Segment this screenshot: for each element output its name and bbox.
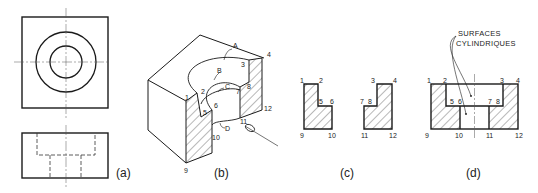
technical-drawing: A B C D 1 2 3 4 5 6 7 8 9 10 11 12 1 2 5… bbox=[0, 0, 538, 193]
d-point-12: 12 bbox=[515, 132, 523, 139]
panel-b: A B C D 1 2 3 4 5 6 7 8 9 10 11 12 bbox=[148, 35, 278, 174]
d-point-2: 2 bbox=[443, 77, 447, 84]
c-point-10: 10 bbox=[328, 132, 336, 139]
caption-d: (d) bbox=[466, 166, 481, 180]
top-view bbox=[14, 8, 110, 118]
panel-d: SURFACES CYLINDRIQUES 1 2 3 4 5 6 7 8 9 … bbox=[425, 29, 523, 140]
caption-b: (b) bbox=[214, 166, 229, 180]
d-point-6: 6 bbox=[458, 98, 462, 105]
c-point-4: 4 bbox=[393, 77, 397, 84]
point-10: 10 bbox=[212, 134, 220, 141]
point-4: 4 bbox=[267, 51, 271, 58]
point-12: 12 bbox=[264, 105, 272, 112]
c-point-8: 8 bbox=[368, 98, 372, 105]
d-point-10: 10 bbox=[455, 132, 463, 139]
label-C: C bbox=[225, 83, 230, 90]
c-point-1: 1 bbox=[300, 77, 304, 84]
point-8: 8 bbox=[247, 83, 251, 90]
point-1: 1 bbox=[185, 94, 189, 101]
annotation-line2: CYLINDRIQUES bbox=[456, 39, 516, 48]
panel-a bbox=[14, 8, 110, 188]
point-9: 9 bbox=[184, 167, 188, 174]
front-view bbox=[22, 125, 108, 188]
point-6: 6 bbox=[214, 102, 218, 109]
annotation-line1: SURFACES bbox=[458, 29, 501, 38]
d-point-3: 3 bbox=[500, 77, 504, 84]
c-point-3: 3 bbox=[371, 77, 375, 84]
c-point-5: 5 bbox=[319, 98, 323, 105]
c-point-2: 2 bbox=[319, 77, 323, 84]
d-point-7: 7 bbox=[488, 98, 492, 105]
d-point-11: 11 bbox=[486, 132, 493, 139]
c-point-7: 7 bbox=[360, 98, 364, 105]
point-2: 2 bbox=[201, 88, 205, 95]
point-11: 11 bbox=[240, 118, 247, 125]
c-point-12: 12 bbox=[389, 132, 397, 139]
label-A: A bbox=[233, 42, 238, 49]
panel-c: 1 2 5 6 9 10 3 4 7 8 11 12 bbox=[300, 77, 397, 139]
d-point-8: 8 bbox=[496, 98, 500, 105]
d-point-9: 9 bbox=[425, 132, 429, 139]
label-D: D bbox=[225, 125, 230, 132]
c-point-6: 6 bbox=[330, 98, 334, 105]
caption-a: (a) bbox=[116, 166, 131, 180]
caption-c: (c) bbox=[340, 166, 354, 180]
point-5: 5 bbox=[203, 109, 207, 116]
point-3: 3 bbox=[241, 61, 245, 68]
c-point-11: 11 bbox=[361, 132, 368, 139]
d-point-4: 4 bbox=[516, 77, 520, 84]
d-point-5: 5 bbox=[450, 98, 454, 105]
d-point-1: 1 bbox=[427, 77, 431, 84]
point-7: 7 bbox=[236, 88, 240, 95]
c-point-9: 9 bbox=[300, 132, 304, 139]
label-B: B bbox=[217, 67, 222, 74]
